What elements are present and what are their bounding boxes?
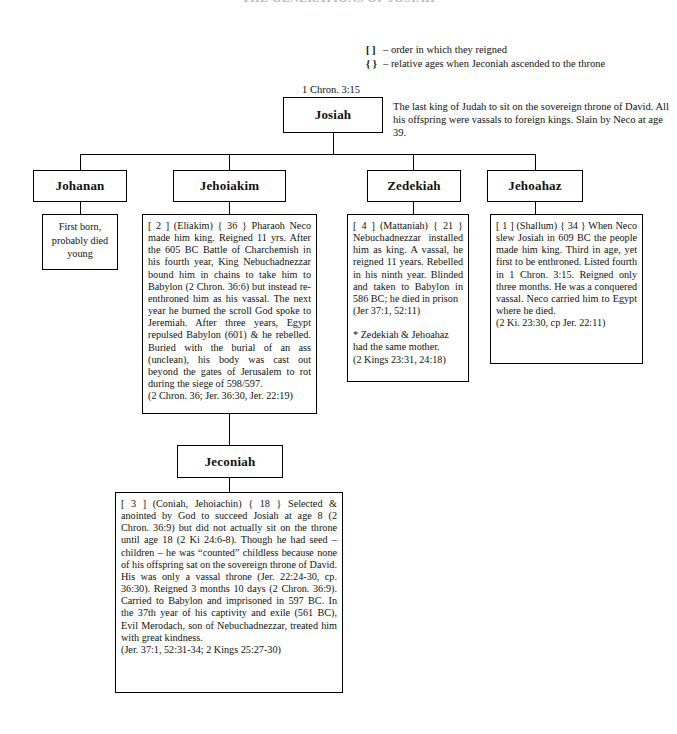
note-jehoahaz: [ 1 ] (Shallum) { 34 } When Neco slew Jo… bbox=[490, 214, 643, 364]
legend-row-ages: { }– relative ages when Jeconiah ascende… bbox=[366, 57, 605, 71]
genealogy-diagram: THE GENERATIONS OF JOSIAH [ ]– order in … bbox=[0, 0, 677, 734]
legend-text-order: – order in which they reigned bbox=[383, 44, 507, 55]
connector-drop-johanan bbox=[80, 154, 81, 170]
node-josiah[interactable]: Josiah bbox=[283, 97, 383, 133]
connector-josiah-down bbox=[333, 133, 334, 154]
note-zedekiah-refs: (Jer 37:1, 52:11) bbox=[353, 305, 463, 317]
node-jeconiah[interactable]: Jeconiah bbox=[177, 445, 283, 478]
connector-drop-jehoahaz bbox=[535, 154, 536, 170]
connector-drop-jehoiakim bbox=[229, 154, 230, 170]
note-jeconiah-main: [ 3 ] (Coniah, Jehoiachin) { 18 } Select… bbox=[121, 498, 337, 644]
legend-symbol-brackets: [ ] bbox=[366, 43, 383, 57]
connector-jeconiah-note bbox=[229, 478, 230, 492]
node-jehoiakim[interactable]: Jehoiakim bbox=[173, 170, 286, 202]
connector-johanan-note bbox=[80, 202, 81, 214]
connector-jehoiakim-note bbox=[229, 202, 230, 214]
note-johanan-text: First born, probably died young bbox=[48, 220, 112, 261]
note-jehoiakim-refs: (2 Chron. 36; Jer. 36:30, Jer. 22:19) bbox=[148, 390, 311, 402]
legend: [ ]– order in which they reigned { }– re… bbox=[366, 43, 605, 71]
note-jehoahaz-refs: (2 Ki. 23:30, cp Jer. 22:11) bbox=[496, 317, 637, 329]
connector-jeconiah-down bbox=[229, 414, 230, 445]
node-jeconiah-label: Jeconiah bbox=[205, 454, 256, 470]
node-johanan[interactable]: Johanan bbox=[33, 170, 127, 202]
note-johanan: First born, probably died young bbox=[42, 214, 118, 270]
note-zedekiah-main: [ 4 ] (Mattaniah) { 21 } Nebuchadnezzar … bbox=[353, 220, 463, 305]
node-jehoahaz-label: Jehoahaz bbox=[508, 178, 562, 194]
node-jehoiakim-label: Jehoiakim bbox=[200, 178, 260, 194]
caption-josiah-reference: 1 Chron. 3:15 bbox=[302, 84, 360, 95]
node-johanan-label: Johanan bbox=[55, 178, 104, 194]
note-jehoiakim-main: [ 2 ] (Eliakim) { 36 } Pharaoh Neco made… bbox=[148, 220, 311, 390]
note-jeconiah: [ 3 ] (Coniah, Jehoiachin) { 18 } Select… bbox=[115, 492, 343, 693]
note-zedekiah-footnote: * Zedekiah & Jehoahaz had the same mothe… bbox=[353, 329, 463, 353]
connector-jehoahaz-note bbox=[535, 202, 536, 214]
note-jehoiakim: [ 2 ] (Eliakim) { 36 } Pharaoh Neco made… bbox=[142, 214, 317, 414]
node-josiah-label: Josiah bbox=[315, 107, 352, 123]
josiah-description: The last king of Judah to sit on the sov… bbox=[393, 100, 673, 140]
legend-row-order: [ ]– order in which they reigned bbox=[366, 43, 605, 57]
legend-text-ages: – relative ages when Jeconiah ascended t… bbox=[383, 58, 605, 69]
note-jehoahaz-main: [ 1 ] (Shallum) { 34 } When Neco slew Jo… bbox=[496, 220, 637, 317]
legend-symbol-braces: { } bbox=[366, 57, 383, 71]
connector-zedekiah-note bbox=[413, 202, 414, 214]
node-zedekiah[interactable]: Zedekiah bbox=[367, 170, 461, 202]
note-zedekiah: [ 4 ] (Mattaniah) { 21 } Nebuchadnezzar … bbox=[347, 214, 469, 382]
note-jeconiah-refs: (Jer. 37:1, 52:31-34; 2 Kings 25:27-30) bbox=[121, 644, 337, 656]
connector-drop-zedekiah bbox=[413, 154, 414, 170]
node-jehoahaz[interactable]: Jehoahaz bbox=[487, 170, 583, 202]
node-zedekiah-label: Zedekiah bbox=[387, 178, 441, 194]
page-title: THE GENERATIONS OF JOSIAH bbox=[0, 0, 677, 6]
note-zedekiah-footnote-refs: (2 Kings 23:31, 24:18) bbox=[353, 354, 463, 366]
connector-sibling-bar bbox=[80, 154, 535, 155]
